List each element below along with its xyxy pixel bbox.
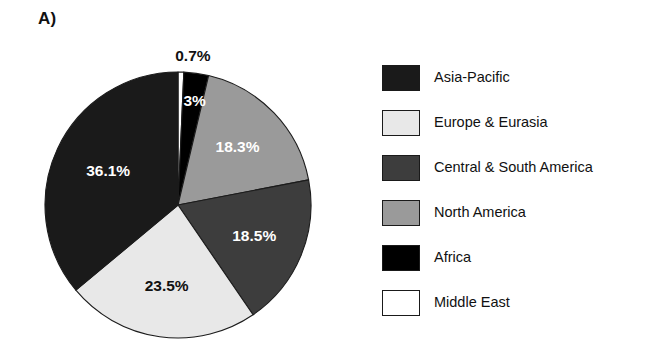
pie-chart: 3%18.3%18.5%23.5%36.1% 0.7% xyxy=(0,30,360,362)
figure-panel-a: A) 3%18.3%18.5%23.5%36.1% 0.7% Asia-Paci… xyxy=(0,0,666,362)
legend-swatch xyxy=(382,245,420,271)
pie-chart-svg: 3%18.3%18.5%23.5%36.1% 0.7% xyxy=(0,30,360,362)
legend-item-label: North America xyxy=(434,205,526,220)
legend-swatch xyxy=(382,155,420,181)
legend-item-label: Asia-Pacific xyxy=(434,70,510,85)
legend-swatch xyxy=(382,110,420,136)
legend-item: North America xyxy=(382,190,662,235)
legend-item-label: Middle East xyxy=(434,295,510,310)
legend-item-label: Europe & Eurasia xyxy=(434,115,548,130)
pie-slice-value: 18.5% xyxy=(232,227,276,244)
legend-item: Asia-Pacific xyxy=(382,55,662,100)
pie-slice-value: 0.7% xyxy=(175,47,211,64)
legend-swatch xyxy=(382,65,420,91)
legend-item: Africa xyxy=(382,235,662,280)
legend: Asia-PacificEurope & EurasiaCentral & So… xyxy=(382,55,662,325)
pie-slice-group xyxy=(45,72,311,338)
legend-item-label: Africa xyxy=(434,250,471,265)
pie-callout-group: 0.7% xyxy=(175,47,211,64)
pie-slice-value: 18.3% xyxy=(216,138,260,155)
legend-swatch xyxy=(382,200,420,226)
legend-swatch xyxy=(382,290,420,316)
legend-item-label: Central & South America xyxy=(434,160,593,175)
legend-item: Middle East xyxy=(382,280,662,325)
pie-slice-value: 3% xyxy=(183,92,206,109)
legend-item: Central & South America xyxy=(382,145,662,190)
legend-item: Europe & Eurasia xyxy=(382,100,662,145)
panel-label: A) xyxy=(38,9,56,29)
pie-slice-value: 23.5% xyxy=(145,277,189,294)
pie-slice-value: 36.1% xyxy=(86,162,130,179)
